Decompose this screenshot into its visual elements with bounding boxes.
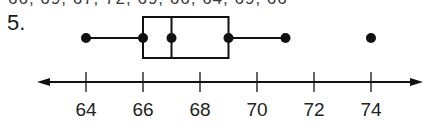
tick-label: 70	[246, 99, 267, 120]
summary-point	[224, 33, 234, 43]
tick-label: 68	[189, 99, 210, 120]
left-arrow-icon	[37, 78, 50, 86]
tick-label: 72	[303, 99, 324, 120]
right-arrow-icon	[410, 78, 423, 86]
summary-point	[81, 33, 91, 43]
summary-point	[281, 33, 291, 43]
iqr-box	[143, 17, 229, 58]
outlier-point	[366, 33, 376, 43]
summary-point	[138, 33, 148, 43]
tick-label: 64	[75, 99, 97, 120]
box-plot: 646668707274	[0, 0, 429, 128]
box-and-whisker	[81, 17, 376, 58]
summary-point	[167, 33, 177, 43]
tick-label: 66	[132, 99, 153, 120]
number-line: 646668707274	[37, 72, 423, 120]
tick-label: 74	[360, 99, 382, 120]
